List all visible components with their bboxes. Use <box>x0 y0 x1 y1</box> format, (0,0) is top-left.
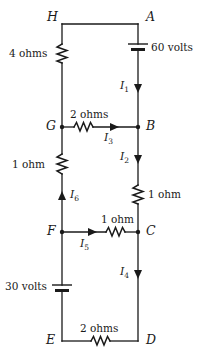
node-label-G: G <box>46 120 56 133</box>
node-label-C: C <box>146 225 156 238</box>
junction-dot-B <box>136 125 140 129</box>
current-arrow-I2 <box>134 155 142 164</box>
resistor-symbol-1ohm-BC <box>133 185 143 204</box>
resistor-symbol-1ohm-FC <box>106 228 125 237</box>
junction-dot-C <box>136 230 140 234</box>
current-label-I2-subscript: 2 <box>124 156 129 165</box>
resistor-label-1-ohm-BC: 1 ohm <box>148 189 181 200</box>
junction-dot-G <box>60 125 64 129</box>
battery-label-30-volts: 30 volts <box>5 281 47 292</box>
current-label-I4-subscript: 4 <box>124 271 129 280</box>
resistor-label-4-ohms: 4 ohms <box>9 48 47 59</box>
resistor-label-1-ohm-FC: 1 ohm <box>101 214 134 225</box>
resistor-label-2-ohms-GB: 2 ohms <box>70 109 108 120</box>
node-label-B: B <box>146 120 155 133</box>
resistor-symbol-2ohms-ED <box>91 337 110 346</box>
battery-label-60-volts: 60 volts <box>151 42 193 53</box>
current-label-I1: I1 <box>120 80 129 94</box>
current-arrow-I4 <box>134 270 142 279</box>
current-label-I1-subscript: 1 <box>124 85 129 94</box>
resistor-label-1-ohm-GF: 1 ohm <box>12 159 45 170</box>
node-label-D: D <box>146 334 156 347</box>
circuit-diagram: H A G B F C E D 4 ohms 60 volts 2 ohms 1… <box>0 0 200 359</box>
current-label-I5-subscript: 5 <box>84 243 89 252</box>
current-label-I2: I2 <box>120 151 129 165</box>
current-label-I3: I3 <box>104 132 113 146</box>
node-label-H: H <box>47 11 58 24</box>
current-label-I6: I6 <box>70 189 79 203</box>
current-label-I4: I4 <box>120 266 129 280</box>
current-arrow-I1 <box>134 84 142 93</box>
resistor-symbol-2ohms-GB <box>74 123 93 132</box>
resistor-symbol-1ohm-GF <box>57 154 67 174</box>
current-label-I5: I5 <box>80 238 89 252</box>
junction-dot-F <box>60 230 64 234</box>
current-label-I6-subscript: 6 <box>74 194 79 203</box>
resistor-symbol-4ohms <box>57 44 67 63</box>
current-arrow-I5 <box>88 228 97 236</box>
current-arrow-I6 <box>58 191 66 200</box>
current-label-I3-subscript: 3 <box>108 137 113 146</box>
node-label-E: E <box>46 334 55 347</box>
resistor-label-2-ohms-ED: 2 ohms <box>80 323 118 334</box>
current-arrow-I3 <box>110 123 119 131</box>
node-label-A: A <box>146 11 155 24</box>
node-label-F: F <box>47 225 56 238</box>
